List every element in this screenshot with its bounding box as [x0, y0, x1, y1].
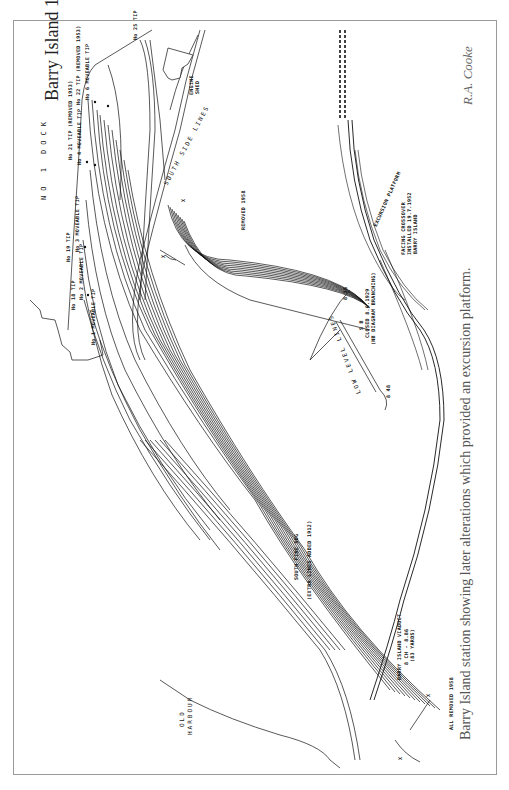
figure-credit: R.A. Cooke [460, 46, 476, 105]
label-removed-1958: REMOVED 1958 [240, 190, 246, 230]
label-crossover-date: INSTALLED 19.7.1952 [406, 192, 412, 255]
label-tip-22: No 22 TIP (REMOVED 1953) [75, 26, 81, 105]
label-moveable-tip-2: No 2 MOVEABLE TIP [78, 244, 84, 300]
label-viaduct: BARRY ISLAND VIADUCT [396, 614, 402, 680]
marker-x-2: X [180, 199, 186, 202]
label-harbour: HARBOUR [186, 696, 193, 735]
label-shed: SHED [194, 81, 200, 94]
label-signal-box-note: (NB DIAGRAM BRANCHING) [370, 272, 376, 345]
label-tip-19: No 19 TIP [65, 232, 71, 262]
label-tip-18: No 18 TIP [70, 280, 76, 310]
label-moveable-tip-1: No 1 MOVEABLE TIP [90, 289, 96, 345]
label-viaduct-yards: (83 YARDS) [409, 629, 415, 662]
label-barry-island: BARRY ISLAND [412, 214, 418, 254]
label-no1-dock: NO 1 DOCK [40, 117, 48, 200]
marker-x-4: X [425, 694, 431, 697]
label-south-fine-sdg: SOUTH FINE SDG [293, 534, 299, 580]
label-all-removed-1958: ALL REMOVED 1958 [448, 677, 454, 730]
old-harbour-lines [140, 440, 360, 760]
removed-1958-lines [168, 205, 370, 330]
figure-title: Barry Island 1927 [42, 0, 63, 101]
label-tip-25: No 25 TIP [132, 10, 138, 40]
tip-markers [84, 101, 109, 296]
label-moveable-tip-6: No 6 MOVEABLE TIP [84, 44, 90, 100]
marker-x-1: X [160, 255, 166, 258]
label-tip-21: No 21 TIP (REMOVED 1953) [67, 81, 73, 160]
label-moveable-tip-4: No 4 MOVEABLE TIP [76, 109, 82, 165]
figure-caption: Barry Island station showing later alter… [458, 268, 474, 740]
label-extra-lines: (EXTRA LINES ADDED 1912) [306, 521, 312, 600]
label-mileage-836: 8 36 [342, 287, 348, 300]
label-mileage-848: 8 48 [385, 385, 391, 398]
marker-x-3: X [397, 757, 403, 760]
label-old: OLD [178, 710, 185, 727]
